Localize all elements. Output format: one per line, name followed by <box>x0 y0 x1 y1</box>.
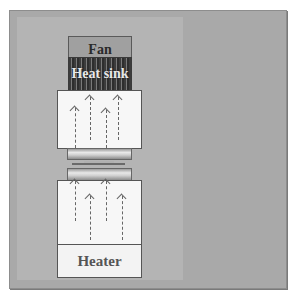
heat-flow-arrow-icon <box>106 110 107 148</box>
contact-layer-light <box>84 161 114 163</box>
heat-flow-arrow-icon <box>122 196 123 240</box>
heater-label: Heater <box>77 253 121 270</box>
heater-component: Heater <box>57 244 142 278</box>
heat-sink-label: Heat sink <box>71 66 128 82</box>
heat-flow-arrow-icon <box>75 108 76 148</box>
fan-component: Fan <box>68 36 132 59</box>
heat-flow-arrow-icon <box>90 196 91 240</box>
heat-flow-arrow-icon <box>118 97 119 140</box>
contact-layer-dark <box>72 163 125 165</box>
heat-sink-component: Heat sink <box>68 57 132 91</box>
heat-flow-arrow-icon <box>75 181 76 221</box>
heat-flow-arrow-icon <box>90 97 91 140</box>
heat-flow-arrow-icon <box>106 181 107 221</box>
fan-label: Fan <box>88 42 111 58</box>
upper-meter-block <box>57 90 142 149</box>
contact-interface <box>72 159 125 167</box>
lower-meter-block <box>57 180 142 245</box>
